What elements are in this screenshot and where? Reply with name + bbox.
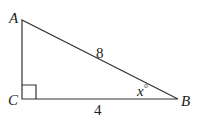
- side-label-cb: 4: [94, 102, 102, 118]
- triangle-diagram: A C B 8 4 x°: [0, 0, 199, 121]
- right-angle-marker: [22, 85, 36, 99]
- vertex-label-a: A: [8, 10, 19, 26]
- angle-label-b: x°: [136, 82, 148, 99]
- vertex-label-b: B: [181, 93, 190, 109]
- vertex-label-c: C: [8, 92, 19, 108]
- side-label-ab: 8: [96, 45, 104, 61]
